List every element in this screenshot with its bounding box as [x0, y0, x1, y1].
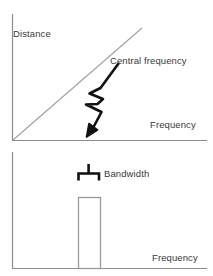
diagram-canvas	[0, 0, 213, 276]
figure-root: Distance Central frequency Frequency Ban…	[0, 0, 213, 276]
bottom-chart-bar	[79, 198, 101, 269]
span-bracket-icon	[79, 164, 100, 181]
bottom-chart-x-axis-label: Frequency	[152, 252, 198, 263]
top-chart-y-axis-label: Distance	[13, 28, 51, 39]
central-frequency-annotation-label: Central frequency	[110, 55, 187, 66]
top-chart-diagonal-line	[13, 28, 142, 140]
top-chart-x-axis-label: Frequency	[150, 119, 196, 130]
bandwidth-annotation-label: Bandwidth	[104, 168, 149, 179]
squiggly-arrow-head-icon	[87, 124, 98, 138]
squiggly-arrow-icon	[86, 64, 119, 129]
